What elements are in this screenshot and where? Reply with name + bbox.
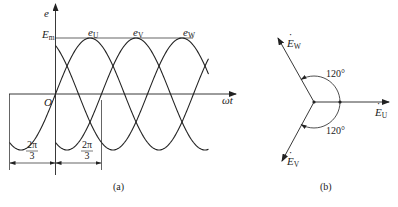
fraction-left: 2π 3 <box>26 139 38 161</box>
svg-text:2π: 2π <box>27 139 37 150</box>
phasor-label-w: EW · <box>286 28 302 51</box>
fraction-right: 2π 3 <box>81 139 93 161</box>
curve-label-v: eV <box>133 26 144 40</box>
phasor-label-u: EU · <box>374 97 388 120</box>
x-axis-label: ωt <box>222 94 234 106</box>
svg-text:3: 3 <box>85 150 90 161</box>
svg-text:·: · <box>289 28 292 40</box>
svg-text:·: · <box>289 146 292 158</box>
angle-label-bottom: 120° <box>326 125 345 136</box>
caption-a: (a) <box>113 181 124 193</box>
curve-label-w: eW <box>183 26 196 40</box>
peak-label: Em <box>41 28 55 42</box>
phasor-v <box>282 102 314 161</box>
origin-dot <box>312 100 315 103</box>
three-phase-diagram: e Em eU eV eW O ωt 2π 3 2π 3 (a) <box>0 0 398 207</box>
svg-text:·: · <box>377 97 380 109</box>
svg-text:2π: 2π <box>82 139 92 150</box>
curve-label-u: eU <box>88 26 99 40</box>
caption-b: (b) <box>320 181 332 193</box>
angle-label-top: 120° <box>326 68 345 79</box>
phasor-diagram: 120° 120° EW · EU · EV · (b) <box>278 28 389 193</box>
svg-text:3: 3 <box>30 150 35 161</box>
origin-label: O <box>44 96 52 108</box>
y-axis-label: e <box>44 7 49 19</box>
waveform-plot: e Em eU eV eW O ωt 2π 3 2π 3 (a) <box>9 4 236 193</box>
phasor-label-v: EV · <box>286 146 300 169</box>
